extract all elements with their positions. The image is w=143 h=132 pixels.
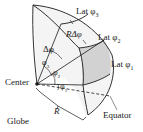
label-r-delta-phi: RΔφ bbox=[66, 30, 82, 39]
center-point bbox=[35, 82, 39, 86]
label-lat1: Lat φ1 bbox=[111, 60, 133, 71]
arc-phi1 bbox=[58, 84, 59, 90]
label-phi1: φ1 bbox=[60, 83, 67, 93]
label-phi2: φ2 bbox=[53, 69, 60, 79]
label-equator: Equator bbox=[103, 111, 132, 120]
label-lat3: Lat φ3 bbox=[76, 7, 98, 18]
label-center: Center bbox=[5, 78, 29, 87]
label-delta-phi: Δφ bbox=[43, 45, 54, 54]
equator-leader bbox=[110, 96, 117, 110]
label-lat2: Lat φ2 bbox=[98, 33, 120, 44]
label-phi3: φ3 bbox=[42, 59, 49, 69]
label-radius: R bbox=[54, 107, 60, 116]
label-globe: Globe bbox=[7, 117, 29, 126]
